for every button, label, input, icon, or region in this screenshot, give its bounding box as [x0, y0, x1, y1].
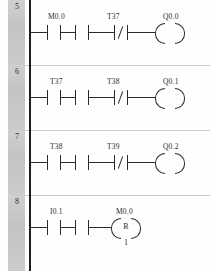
contact-normally-open-icon[interactable]	[75, 90, 89, 105]
rung-separator	[8, 130, 210, 131]
rung-number: 6	[10, 67, 24, 76]
contact-normally-open-icon[interactable]	[75, 220, 89, 235]
contact-normally-open-icon[interactable]	[47, 220, 61, 235]
wire-segment	[31, 32, 47, 33]
wire-segment	[89, 227, 111, 228]
rung-separator	[8, 65, 210, 66]
wire-segment	[128, 32, 155, 33]
rung-gutter	[8, 195, 25, 271]
coil-label: Q0.2	[163, 142, 179, 151]
contact-label: T38	[50, 142, 63, 151]
contact-normally-open-icon[interactable]	[75, 155, 89, 170]
contact-normally-open-icon[interactable]	[75, 25, 89, 40]
rung-separator	[8, 195, 210, 196]
coil-label: M0.0	[116, 207, 133, 216]
coil-reset-icon[interactable]: R 1	[111, 218, 141, 237]
coil-output-icon[interactable]	[155, 88, 185, 107]
contact-label: T37	[107, 12, 120, 21]
contact-normally-open-icon[interactable]	[47, 155, 61, 170]
wire-segment	[31, 162, 47, 163]
contact-label: I0.1	[50, 207, 63, 216]
contact-label: T38	[107, 77, 120, 86]
rung-number: 8	[10, 197, 24, 206]
wire-segment	[89, 97, 114, 98]
coil-operand-count: 1	[111, 238, 141, 247]
wire-segment	[61, 97, 75, 98]
coil-output-icon[interactable]	[155, 23, 185, 42]
contact-normally-closed-icon[interactable]	[114, 155, 128, 170]
ladder-diagram-sheet: 5 M0.0 T37 Q0.0 6 T37	[0, 0, 210, 271]
ladder-rung[interactable]: 8 I0.1 M0.0 R 1	[0, 195, 210, 271]
contact-label: M0.0	[48, 12, 65, 21]
coil-label: Q0.1	[163, 77, 179, 86]
wire-segment	[61, 227, 75, 228]
wire-segment	[89, 162, 114, 163]
coil-output-icon[interactable]	[155, 153, 185, 172]
contact-normally-closed-icon[interactable]	[114, 25, 128, 40]
wire-segment	[61, 162, 75, 163]
contact-normally-closed-icon[interactable]	[114, 90, 128, 105]
wire-segment	[61, 32, 75, 33]
coil-label: Q0.0	[163, 12, 179, 21]
wire-segment	[31, 97, 47, 98]
rung-number: 5	[10, 2, 24, 11]
contact-label: T39	[107, 142, 120, 151]
contact-normally-open-icon[interactable]	[47, 25, 61, 40]
wire-segment	[31, 227, 47, 228]
wire-segment	[128, 162, 155, 163]
wire-segment	[128, 97, 155, 98]
contact-label: T37	[50, 77, 63, 86]
coil-reset-letter: R	[111, 222, 141, 231]
wire-segment	[89, 32, 114, 33]
rung-number: 7	[10, 132, 24, 141]
ladder-rung[interactable]: 5 M0.0 T37 Q0.0	[0, 0, 210, 65]
contact-normally-open-icon[interactable]	[47, 90, 61, 105]
ladder-rung[interactable]: 7 T38 T39 Q0.2	[0, 130, 210, 195]
power-rail-icon	[29, 195, 31, 271]
ladder-rung[interactable]: 6 T37 T38 Q0.1	[0, 65, 210, 130]
